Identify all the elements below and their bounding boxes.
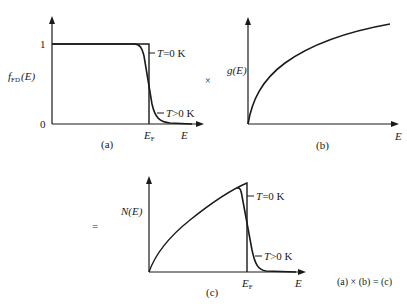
panel-c: N(E) T=0 K T>0 K EF E (c) [120, 180, 302, 299]
times-operator: × [205, 75, 211, 86]
panel-a-tpos-label: T>0 K [166, 107, 195, 119]
panel-a-ytick-zero: 0 [40, 118, 46, 130]
panel-c-ylabel: N(E) [120, 205, 143, 218]
panel-a-t0-label: T=0 K [157, 47, 186, 59]
panel-a-ytick-one: 1 [40, 38, 46, 50]
panel-a-curve-t0 [52, 44, 149, 124]
panel-c-caption: (c) [206, 286, 219, 299]
equals-operator: = [92, 220, 98, 232]
panel-c-xlabel: E [294, 277, 302, 289]
panel-b-caption: (b) [316, 139, 329, 152]
panel-a: 1 0 fFD(E) T=0 K T>0 K EF E (a) [8, 20, 200, 151]
panel-c-curve-t0 [149, 183, 247, 272]
panel-a-ylabel: fFD(E) [8, 70, 35, 84]
panel-b-curve [248, 24, 390, 124]
fermi-dirac-diagram: 1 0 fFD(E) T=0 K T>0 K EF E (a) × g(E) E… [0, 0, 407, 307]
panel-b-xlabel: E [394, 130, 402, 142]
panel-c-tpos-label: T>0 K [264, 250, 293, 262]
panel-c-t0-label: T=0 K [256, 190, 285, 202]
panel-c-ef-label: EF [241, 277, 253, 291]
panel-a-ef-label: EF [143, 129, 155, 143]
panel-b: g(E) E (b) [227, 21, 402, 152]
panel-a-caption: (a) [101, 138, 114, 151]
panel-a-xlabel: E [180, 129, 188, 141]
panel-b-ylabel: g(E) [227, 64, 247, 77]
equation-label: (a) × (b) = (c) [337, 276, 392, 288]
